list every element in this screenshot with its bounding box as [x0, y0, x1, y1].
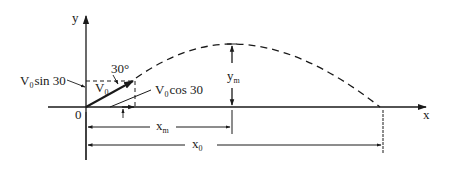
projectile-diagram: y x 0 V0 30° V0sin 30 V0cos 30: [0, 0, 454, 169]
horizontal-component-annotation: V0cos 30: [110, 82, 203, 118]
origin-label: 0: [75, 107, 82, 122]
horizontal-component-label: V0cos 30: [155, 82, 203, 99]
peak-distance-dimension: xm: [86, 110, 232, 160]
range-dimension: x0: [88, 110, 383, 154]
range-label: x0: [192, 136, 203, 153]
velocity-vector: V0: [86, 80, 133, 107]
angle-annotation: 30°: [111, 61, 129, 84]
y-axis-label: y: [72, 10, 79, 25]
x-axis: x 0: [48, 107, 430, 122]
angle-label: 30°: [111, 61, 129, 76]
trajectory-curve: [136, 44, 380, 107]
max-height-label: ym: [227, 68, 241, 85]
x-axis-label: x: [423, 107, 430, 122]
vertical-component-annotation: V0sin 30: [20, 73, 85, 90]
peak-distance-label: xm: [156, 118, 170, 135]
max-height-dimension: ym: [227, 44, 241, 105]
velocity-label: V0: [95, 80, 108, 97]
vertical-component-label: V0sin 30: [20, 73, 66, 90]
